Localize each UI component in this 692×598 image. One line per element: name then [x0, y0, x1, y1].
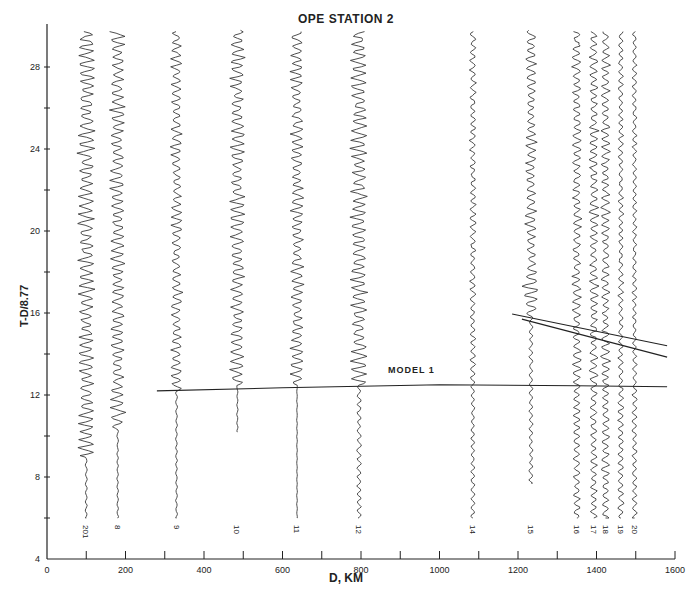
trace-label-15: 15: [526, 525, 535, 534]
x-tick-label: 1400: [586, 565, 606, 575]
trace-label-14: 14: [468, 525, 477, 534]
trace-label-19: 19: [616, 525, 625, 534]
trace-label-8: 8: [113, 525, 122, 530]
trace-label-16: 16: [572, 525, 581, 534]
trace-label-11: 11: [292, 525, 301, 534]
trace-label-201: 201: [81, 525, 90, 539]
trace-label-18: 18: [601, 525, 610, 534]
trace-9: [170, 32, 183, 518]
trace-label-17: 17: [589, 525, 598, 534]
y-tick-label: 28: [30, 62, 40, 72]
trace-201: [77, 32, 95, 518]
trace-20: [632, 32, 637, 518]
y-tick-label: 20: [30, 226, 40, 236]
trace-14: [469, 32, 476, 518]
x-tick-label: 400: [196, 565, 211, 575]
seismic-traces: [77, 30, 637, 518]
trace-label-9: 9: [172, 525, 181, 530]
y-tick-label: 16: [30, 308, 40, 318]
y-tick-label: 8: [35, 472, 40, 482]
trace-18: [601, 32, 611, 518]
x-tick-label: 0: [44, 565, 49, 575]
curve-branch-a: [512, 314, 667, 346]
trace-labels: 2018910111214151617181920: [81, 525, 638, 539]
y-tick-label: 4: [35, 554, 40, 564]
trace-11: [290, 32, 304, 518]
trace-label-20: 20: [630, 525, 639, 534]
trace-19: [618, 32, 624, 518]
y-tick-label: 24: [30, 144, 40, 154]
curve-branch-b: [522, 319, 667, 357]
x-tick-label: 600: [275, 565, 290, 575]
axes: 0200400600800100012001400160048121620242…: [30, 24, 685, 575]
trace-10: [230, 30, 246, 432]
x-tick-label: 1200: [508, 565, 528, 575]
trace-15: [522, 30, 537, 483]
x-tick-label: 1600: [665, 565, 685, 575]
y-tick-label: 12: [30, 390, 40, 400]
trace-17: [589, 32, 599, 518]
curve-model-1: [157, 385, 667, 391]
record-section-plot: 0200400600800100012001400160048121620242…: [0, 0, 692, 598]
x-tick-label: 200: [118, 565, 133, 575]
trace-12: [350, 32, 368, 518]
trace-label-10: 10: [232, 525, 241, 534]
x-tick-label: 1000: [429, 565, 449, 575]
trace-label-12: 12: [354, 525, 363, 534]
trace-8: [109, 32, 126, 518]
x-tick-label: 800: [353, 565, 368, 575]
trace-16: [572, 32, 582, 518]
